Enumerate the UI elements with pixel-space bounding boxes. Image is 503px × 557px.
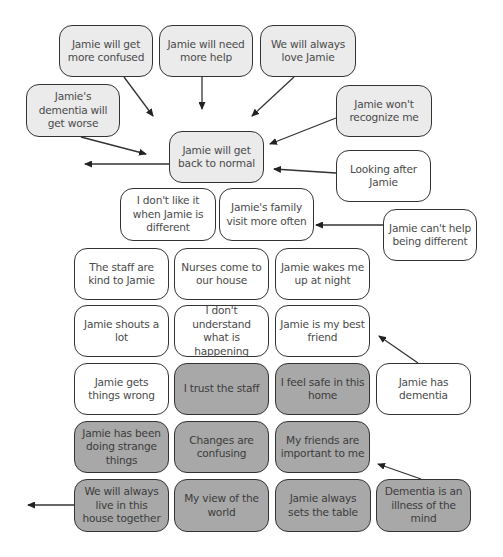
card-label: Jamie will get back to normal [174, 144, 259, 171]
card-more-confused: Jamie will get more confused [59, 25, 153, 77]
card-label: Jamie always sets the table [280, 492, 366, 519]
arrow-from-always-love [252, 77, 294, 116]
card-label: Jamie gets things wrong [79, 376, 164, 403]
card-feel-safe: I feel safe in this home [275, 363, 370, 415]
card-dementia-worse: Jamie's dementia will get worse [26, 84, 120, 137]
card-label: Jamie is my best friend [280, 318, 365, 345]
card-staff-kind: The staff are kind to Jamie [74, 248, 169, 300]
arrow-from-dementia-worse [81, 137, 146, 154]
card-strange-things: Jamie has been doing strange things [74, 421, 169, 473]
card-nurses-come: Nurses come to our house [174, 248, 269, 300]
card-changes-confusing: Changes are confusing [174, 421, 269, 473]
card-best-friend: Jamie is my best friend [275, 305, 370, 357]
card-sets-table: Jamie always sets the table [275, 479, 371, 532]
card-label: Looking after Jamie [341, 163, 426, 190]
card-label: We will always live in this house togeth… [79, 485, 164, 526]
card-friends-important: My friends are important to me [275, 421, 370, 473]
card-label: Jamie has been doing strange things [79, 427, 164, 468]
arrow-from-has-dementia [379, 336, 418, 363]
card-label: I don't like it when Jamie is different [125, 194, 211, 235]
card-label: I don't understand what is happening [179, 304, 264, 358]
card-label: Jamie shouts a lot [79, 318, 164, 345]
card-my-view: My view of the world [174, 479, 269, 532]
card-label: Jamie's dementia will get worse [31, 90, 115, 131]
card-shouts: Jamie shouts a lot [74, 305, 169, 357]
card-label: Jamie has dementia [381, 376, 466, 403]
dementia-concept-map: Jamie will get more confusedJamie will n… [0, 0, 503, 557]
card-more-help: Jamie will need more help [159, 25, 253, 77]
card-label: Changes are confusing [179, 434, 264, 461]
card-label: I trust the staff [184, 382, 260, 396]
arrow-from-looking-after [274, 169, 336, 173]
card-label: Jamie will need more help [164, 38, 248, 65]
card-dont-understand: I don't understand what is happening [174, 305, 269, 357]
card-label: I feel safe in this home [280, 376, 365, 403]
card-label: Jamie's family visit more often [224, 201, 309, 228]
arrow-from-more-confused [124, 77, 153, 116]
card-label: The staff are kind to Jamie [79, 261, 164, 288]
card-illness-of-mind: Dementia is an illness of the mind [376, 479, 471, 532]
card-label: Jamie can't help being different [388, 222, 472, 249]
card-family-visit: Jamie's family visit more often [219, 188, 314, 241]
card-trust-staff: I trust the staff [174, 363, 269, 415]
card-always-love: We will always love Jamie [260, 25, 356, 77]
card-label: Jamie won't recognize me [341, 98, 427, 125]
card-cant-help: Jamie can't help being different [383, 209, 477, 261]
card-live-together: We will always live in this house togeth… [74, 479, 169, 532]
card-label: Jamie wakes me up at night [280, 261, 365, 288]
card-dont-like-different: I don't like it when Jamie is different [120, 188, 216, 241]
card-has-dementia: Jamie has dementia [376, 363, 471, 415]
card-label: My view of the world [179, 492, 264, 519]
card-looking-after: Looking after Jamie [336, 150, 431, 202]
card-wakes-me: Jamie wakes me up at night [275, 248, 370, 300]
card-label: My friends are important to me [280, 434, 365, 461]
arrow-from-illness-of-mind [378, 464, 421, 479]
card-label: Dementia is an illness of the mind [381, 485, 466, 526]
card-gets-wrong: Jamie gets things wrong [74, 363, 169, 415]
card-wont-recognize: Jamie won't recognize me [336, 85, 432, 137]
arrow-from-wont-recognize [270, 118, 336, 144]
card-label: Jamie will get more confused [64, 38, 148, 65]
card-back-to-normal: Jamie will get back to normal [169, 131, 264, 183]
card-label: Nurses come to our house [179, 261, 264, 288]
card-label: We will always love Jamie [265, 38, 351, 65]
